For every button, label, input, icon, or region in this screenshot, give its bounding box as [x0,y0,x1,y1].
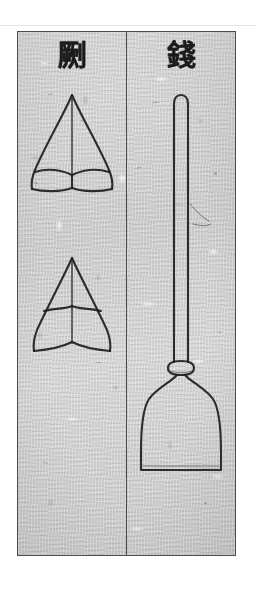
scanned-page: 劂 [0,0,256,600]
plate-column-left: 劂 [18,32,126,555]
column-heading-left: 劂 [18,39,126,73]
plate-column-right: 錢 [127,32,235,555]
figure-arrowhead-lower [18,250,126,380]
scanner-seam-line [0,25,256,26]
woodblock-plate: 劂 [17,31,236,556]
figure-arrowhead-upper [18,88,126,218]
figure-spade-tool [127,66,235,536]
